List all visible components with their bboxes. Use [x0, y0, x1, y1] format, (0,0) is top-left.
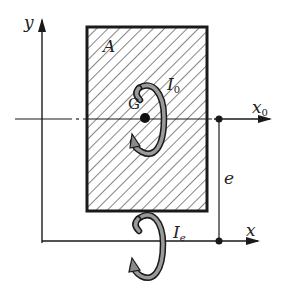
diagram-canvas: y A G I0 x0 e Ie x	[0, 0, 282, 298]
x0-axis-label: x0	[252, 99, 268, 118]
x-axis-label: x	[246, 222, 256, 239]
diagram-svg	[0, 0, 282, 298]
moment-i0-subscript: 0	[174, 84, 180, 95]
area-label: A	[103, 38, 115, 55]
moment-i0-label: I0	[167, 76, 180, 95]
moment-ie-subscript: e	[180, 232, 186, 243]
moment-ie-symbol: I	[173, 222, 180, 242]
rotation-arrow-ie-icon	[129, 215, 163, 278]
x0-symbol: x	[252, 97, 262, 117]
moment-i0-symbol: I	[167, 74, 174, 94]
y-axis-label: y	[24, 14, 34, 31]
distance-e-dimension	[216, 116, 223, 245]
centroid-dot	[140, 113, 150, 123]
x0-subscript: 0	[262, 107, 268, 118]
moment-ie-label: Ie	[173, 224, 186, 243]
distance-e-label: e	[224, 170, 234, 187]
centroid-label: G	[128, 97, 140, 112]
